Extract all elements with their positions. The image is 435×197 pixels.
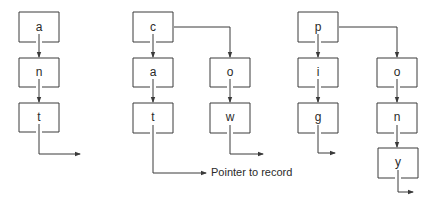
node-label-i: i: [298, 65, 338, 79]
edge-p-o: [339, 27, 397, 57]
node-label-y: y: [378, 155, 418, 169]
record-pointer-cow: [230, 125, 263, 154]
node-label-a2: a: [133, 65, 173, 79]
node-label-p: p: [298, 20, 338, 34]
node-label-g: g: [298, 110, 338, 124]
node-label-o: o: [210, 65, 250, 79]
node-label-c: c: [133, 20, 173, 34]
pointer-to-record-caption: Pointer to record: [211, 166, 292, 179]
record-pointer-pig: [318, 125, 335, 153]
node-label-w: w: [210, 110, 250, 124]
node-label-t2: t: [133, 110, 173, 124]
trie-cat-cow: [133, 12, 263, 173]
record-pointer-cat: [153, 125, 206, 173]
record-pointer-pony: [398, 170, 413, 192]
node-label-t: t: [19, 110, 59, 124]
node-label-a: a: [19, 20, 59, 34]
edge-c-o: [174, 27, 230, 57]
node-label-n3: n: [377, 110, 417, 124]
node-label-o3: o: [377, 65, 417, 79]
node-label-n: n: [19, 65, 59, 79]
